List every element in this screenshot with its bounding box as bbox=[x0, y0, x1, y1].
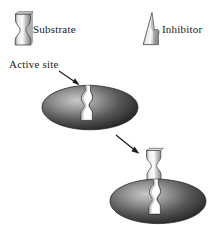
legend-label-inhibitor: Inhibitor bbox=[162, 23, 202, 35]
active-site-pointer-arrow bbox=[59, 71, 80, 85]
substrate-bound-shape bbox=[147, 148, 164, 182]
inhibitor-icon bbox=[143, 13, 159, 45]
substrate-icon bbox=[15, 12, 33, 45]
figure-canvas: Substrate Inhibitor Active site bbox=[0, 0, 219, 225]
legend-label-substrate: Substrate bbox=[33, 23, 76, 35]
binding-transition-arrow bbox=[116, 135, 139, 154]
annotation-label-active-site: Active site bbox=[9, 58, 59, 70]
enzyme-top bbox=[42, 85, 138, 130]
enzyme-bottom bbox=[110, 179, 206, 224]
